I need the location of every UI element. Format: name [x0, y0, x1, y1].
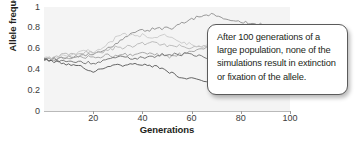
x-tickmark-80 — [241, 111, 242, 114]
x-tick-60: 60 — [177, 113, 207, 123]
y-tick-0.4: 0.4 — [20, 65, 40, 74]
x-tickmark-100 — [290, 111, 291, 114]
y-tick-0: 0 — [20, 107, 40, 116]
x-tickmark-60 — [192, 111, 193, 114]
callout-box: After 100 generations of a large populat… — [207, 24, 348, 95]
callout-text: After 100 generations of a large populat… — [217, 31, 341, 84]
x-tick-20: 20 — [78, 113, 108, 123]
y-axis-tick-labels: 00.20.40.60.81 — [18, 0, 40, 142]
allele-frequency-figure: Allele frequency 00.20.40.60.81 Generati… — [0, 0, 358, 142]
x-tick-80: 80 — [226, 113, 256, 123]
y-tick-0.8: 0.8 — [20, 23, 40, 32]
y-tick-0.6: 0.6 — [20, 44, 40, 53]
y-tick-1: 1 — [20, 3, 40, 12]
x-axis-title: Generations — [44, 124, 290, 135]
x-tickmark-20 — [93, 111, 94, 114]
x-tickmark-40 — [142, 111, 143, 114]
y-axis-title: Allele frequency — [7, 0, 18, 68]
x-tick-40: 40 — [127, 113, 157, 123]
y-tick-0.2: 0.2 — [20, 86, 40, 95]
x-tick-100: 100 — [275, 113, 305, 123]
